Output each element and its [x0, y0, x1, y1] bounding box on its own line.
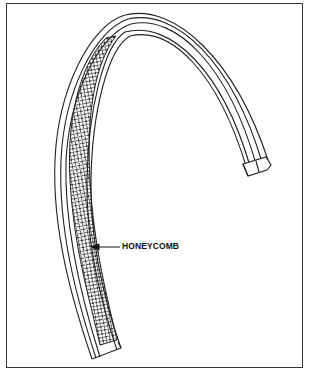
honeycomb-arrow	[92, 244, 120, 250]
end-fitting	[243, 157, 271, 176]
honeycomb-label: HONEYCOMB	[122, 241, 179, 251]
member-outline	[55, 13, 268, 359]
curved-member-illustration	[0, 0, 310, 376]
